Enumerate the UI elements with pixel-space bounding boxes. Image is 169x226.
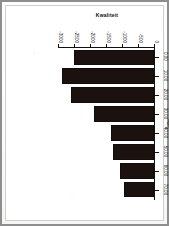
bar-slot (58, 180, 154, 199)
x-axis-tick (155, 95, 159, 96)
y-axis-tick-label: -2500 (74, 13, 75, 44)
x-axis-tick (155, 133, 159, 134)
bar-slot (58, 48, 154, 67)
bar-chart: age Kwaliteit 0-500-1000-1500-2000-2500-… (9, 13, 161, 213)
bar (120, 163, 154, 179)
bar-slot (58, 67, 154, 86)
bar (61, 68, 153, 84)
bar-slot (58, 161, 154, 180)
x-axis-tick-label: 30.00 (163, 108, 168, 119)
x-axis-tick (155, 114, 159, 115)
bar (73, 50, 153, 66)
x-axis-tick-label: 70.00 (163, 184, 168, 195)
y-axis-tick-label: -2000 (90, 13, 91, 44)
y-axis-tick-label: -500 (138, 13, 139, 44)
x-axis-tick-label: 0.00 (163, 52, 168, 61)
bar-slot (58, 105, 154, 124)
bar (70, 87, 153, 103)
bar-slot (58, 124, 154, 143)
x-axis-tick-label: 20.00 (163, 89, 168, 100)
scanned-page: age Kwaliteit 0-500-1000-1500-2000-2500-… (0, 0, 169, 226)
figure-frame: age Kwaliteit 0-500-1000-1500-2000-2500-… (5, 5, 164, 221)
y-axis-tick-label: -1000 (122, 13, 123, 44)
y-axis-tick-label: -3000 (58, 13, 59, 44)
bar (111, 125, 154, 141)
bar-slot (58, 86, 154, 105)
y-axis-tick-label: -1500 (106, 13, 107, 44)
bar-slot (58, 142, 154, 161)
x-axis-tick (155, 76, 159, 77)
bar (113, 144, 154, 160)
x-axis-tick-label: 40.00 (163, 127, 168, 138)
x-axis-tick-label: 50.00 (163, 146, 168, 157)
x-axis-tick (155, 190, 159, 191)
x-axis-tick-label: 10.00 (163, 70, 168, 81)
x-axis-tick (155, 57, 159, 58)
bar-series (58, 48, 154, 199)
x-axis-tick-label: 60.00 (163, 165, 168, 176)
bar (94, 106, 154, 122)
rotated-chart-container: age Kwaliteit 0-500-1000-1500-2000-2500-… (9, 13, 161, 213)
y-axis-tick-label: 0 (154, 13, 155, 44)
bar (124, 182, 154, 198)
x-axis-tick (155, 152, 159, 153)
x-axis-tick (155, 171, 159, 172)
